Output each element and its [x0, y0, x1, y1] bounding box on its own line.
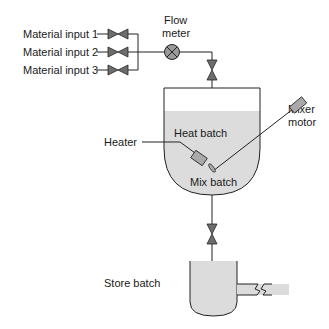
material-input-1-label: Material input 1 [23, 28, 98, 40]
flow-meter-icon[interactable] [165, 45, 180, 60]
mix-batch-label: Mix batch [190, 176, 237, 188]
tank-outlet-valve-icon[interactable] [207, 224, 217, 244]
store-batch-label: Store batch [104, 277, 160, 289]
flow-meter-label-line1: Flow [164, 14, 187, 26]
input-valve-2-icon[interactable] [108, 47, 128, 57]
material-input-2-label: Material input 2 [23, 46, 98, 58]
tank-inlet-valve-icon[interactable] [207, 60, 217, 80]
input-valve-1-icon[interactable] [108, 29, 128, 39]
input-valve-3-icon[interactable] [108, 65, 128, 75]
heat-batch-label: Heat batch [174, 127, 227, 139]
store-tank [190, 261, 289, 316]
heater-label: Heater [104, 136, 137, 148]
batch-process-diagram: Material input 1 Material input 2 Materi… [0, 0, 329, 329]
flow-meter-outlet-pipe [180, 52, 213, 60]
material-input-3-label: Material input 3 [23, 64, 98, 76]
mixer-motor-label-line2: motor [288, 116, 316, 128]
flow-meter-label-line2: meter [162, 27, 190, 39]
